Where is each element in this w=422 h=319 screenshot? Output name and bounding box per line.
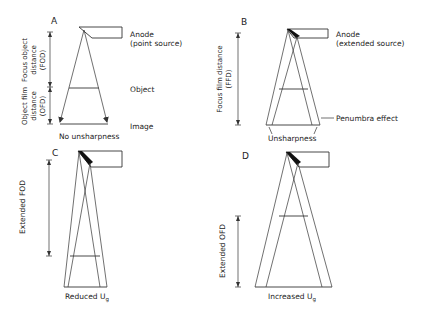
- panel-d-label: D: [242, 151, 249, 161]
- extended-ofd-label: Extended OFD: [218, 224, 227, 278]
- panel-a-label: A: [51, 16, 58, 26]
- caption-unsharpness: Unsharpness: [268, 134, 317, 143]
- svg-text:Object film: Object film: [21, 87, 29, 125]
- ffd-dimension: [235, 33, 241, 125]
- extended-fod-dimension: [46, 160, 52, 256]
- anode-label: Anode: [130, 30, 154, 39]
- svg-text:(FOD): (FOD): [39, 50, 47, 71]
- image-label: Image: [130, 122, 154, 131]
- svg-text:Focus object: Focus object: [21, 38, 29, 82]
- x-ray-beam: [60, 30, 107, 122]
- panel-a: A Focus object distance (FOD): [21, 16, 182, 141]
- panel-c: C Extended FOD Reduced Ug: [18, 148, 122, 303]
- svg-text:(OFD): (OFD): [39, 96, 47, 117]
- unsharpness-pointer-left: [269, 127, 272, 134]
- ofd-label: Object film distance (OFD): [21, 87, 47, 125]
- caption-no-unsharpness: No unsharpness: [59, 132, 119, 141]
- panel-c-label: C: [52, 148, 58, 158]
- extended-fod-label: Extended FOD: [18, 180, 27, 234]
- fod-label: Focus object distance (FOD): [21, 38, 47, 82]
- svg-text:Extended FOD: Extended FOD: [18, 180, 27, 234]
- panel-d: D Extended OFD Increased Ug: [218, 151, 332, 303]
- svg-text:Focus film distance: Focus film distance: [216, 45, 224, 112]
- svg-text:Extended OFD: Extended OFD: [218, 224, 227, 278]
- panel-b: B Focus film distance (FFD) Anode (exten…: [216, 17, 405, 143]
- anode-sublabel: (point source): [130, 39, 182, 48]
- penumbra-label: Penumbra effect: [336, 114, 398, 123]
- ffd-label: Focus film distance (FFD): [216, 45, 233, 112]
- anode-label: Anode: [336, 30, 360, 39]
- x-ray-beam: [64, 152, 107, 287]
- unsharpness-pointer-right: [314, 127, 317, 134]
- svg-text:distance: distance: [30, 91, 38, 121]
- caption-reduced-ug: Reduced Ug: [65, 292, 109, 303]
- x-ray-beam: [255, 153, 332, 287]
- extended-ofd-dimension: [235, 216, 241, 287]
- panel-b-label: B: [241, 17, 247, 27]
- radiography-diagram: A Focus object distance (FOD): [0, 0, 422, 319]
- svg-text:(FFD): (FFD): [225, 69, 233, 88]
- svg-text:distance: distance: [30, 45, 38, 75]
- anode-sublabel: (extended source): [336, 39, 405, 48]
- object-label: Object: [130, 85, 154, 94]
- x-ray-beam: [266, 30, 320, 125]
- caption-increased-ug: Increased Ug: [268, 292, 316, 303]
- fod-ofd-dimension: [47, 32, 53, 124]
